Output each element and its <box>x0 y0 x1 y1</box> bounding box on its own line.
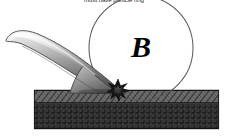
figure-canvas <box>0 0 228 136</box>
callout-label-b: B <box>131 32 151 62</box>
tip-contact-shadow <box>78 89 130 94</box>
afm-cantilever-tip <box>6 31 122 94</box>
afm-contact-figure: must have particle ring <box>0 0 228 136</box>
